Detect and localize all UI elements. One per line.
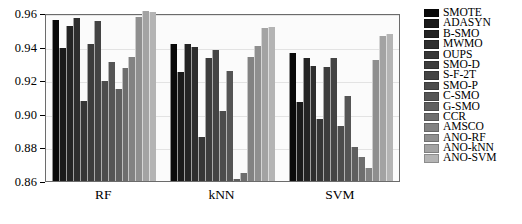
bar-fill: [337, 126, 344, 181]
bar-svm-ccr: [358, 157, 365, 181]
bar-rf-ano-rf: [135, 17, 142, 181]
legend: SMOTEADASYNB-SMOMWMOOUPSSMO-DS-F-2TSMO-P…: [424, 8, 520, 164]
bar-fill: [212, 50, 219, 181]
bar-fill: [386, 34, 393, 182]
legend-swatch: [424, 9, 439, 18]
bar-fill: [101, 81, 108, 181]
bar-svm-amsco: [365, 168, 372, 181]
bar-fill: [191, 47, 198, 181]
bar-rf-c-smo: [108, 62, 115, 181]
bar-fill: [66, 26, 73, 181]
bar-fill: [254, 46, 261, 181]
bar-fill: [330, 58, 337, 181]
bar-fill: [240, 173, 247, 181]
bar-rf-g-smo: [115, 89, 122, 181]
bar-knn-oups: [198, 137, 205, 181]
legend-swatch: [424, 71, 439, 80]
bar-svm-smote: [289, 53, 296, 181]
bar-knn-ano-rf: [254, 46, 261, 181]
bar-rf-b-smo: [66, 26, 73, 181]
bar-fill: [73, 18, 80, 181]
bar-fill: [344, 96, 351, 181]
bar-knn-ano-knn: [261, 28, 268, 181]
bar-fill: [358, 157, 365, 181]
bar-knn-adasyn: [177, 72, 184, 181]
group-gap: [275, 15, 289, 181]
bar-rf-adasyn: [59, 48, 66, 181]
y-tick-label: 0.92: [15, 74, 37, 89]
x-tick-label-knn: kNN: [208, 187, 234, 203]
group-gap: [156, 15, 170, 181]
legend-swatch: [424, 30, 439, 39]
bar-groups: [46, 15, 399, 181]
bar-rf-smote: [52, 20, 59, 181]
bar-knn-amsco: [247, 57, 254, 181]
legend-swatch: [424, 134, 439, 143]
bar-svm-smo-p: [337, 126, 344, 181]
bar-fill: [296, 102, 303, 181]
bar-fill: [142, 11, 149, 181]
bar-svm-ano-knn: [379, 36, 386, 181]
x-tick-label-svm: SVM: [325, 187, 354, 203]
bar-fill: [323, 67, 330, 181]
legend-swatch: [424, 51, 439, 60]
bar-group-rf: [52, 15, 156, 181]
bar-knn-ccr: [240, 173, 247, 181]
bar-fill: [198, 137, 205, 181]
bar-rf-s-f-2t: [94, 21, 101, 181]
bar-svm-mwmo: [310, 66, 317, 181]
bar-knn-ano-svm: [268, 27, 275, 181]
bar-svm-smo-d: [323, 67, 330, 181]
bar-knn-b-smo: [184, 44, 191, 181]
bar-fill: [316, 119, 323, 181]
bar-fill: [87, 44, 94, 181]
bar-fill: [149, 12, 156, 181]
legend-swatch: [424, 144, 439, 153]
legend-swatch: [424, 113, 439, 122]
bar-group-knn: [170, 15, 274, 181]
bar-fill: [115, 89, 122, 181]
bar-fill: [303, 58, 310, 181]
bar-svm-ano-rf: [372, 60, 379, 181]
bar-fill: [372, 60, 379, 181]
bar-rf-mwmo: [73, 18, 80, 181]
y-tick-label: 0.88: [15, 141, 37, 156]
bar-fill: [52, 20, 59, 181]
bar-group-svm: [289, 15, 393, 181]
bar-knn-c-smo: [226, 71, 233, 181]
legend-swatch: [424, 102, 439, 111]
bar-fill: [205, 58, 212, 181]
bar-svm-adasyn: [296, 102, 303, 181]
bar-fill: [108, 62, 115, 181]
x-tick-label-rf: RF: [95, 187, 112, 203]
legend-item-g-smo[interactable]: G-SMO: [424, 102, 520, 112]
legend-item-mwmo[interactable]: MWMO: [424, 39, 520, 49]
bar-fill: [177, 72, 184, 181]
bar-fill: [379, 36, 386, 181]
plot-area: [45, 14, 400, 182]
y-tick-label: 0.86: [15, 175, 37, 190]
legend-swatch: [424, 92, 439, 101]
bar-fill: [268, 27, 275, 181]
bar-knn-smo-d: [205, 58, 212, 181]
y-tick-label: 0.96: [15, 7, 37, 22]
bar-fill: [226, 71, 233, 181]
legend-swatch: [424, 123, 439, 132]
y-tick-label: 0.90: [15, 107, 37, 122]
bar-rf-ano-knn: [142, 11, 149, 181]
bar-fill: [135, 17, 142, 181]
legend-swatch: [424, 40, 439, 49]
legend-swatch: [424, 61, 439, 70]
bar-fill: [122, 68, 129, 181]
bar-fill: [310, 66, 317, 181]
bar-fill: [80, 101, 87, 181]
legend-item-ano-svm[interactable]: ANO-SVM: [424, 153, 520, 163]
bar-fill: [247, 57, 254, 181]
x-axis: RFkNNSVM: [45, 183, 400, 209]
bar-chart-figure: 0.860.880.900.920.940.96 RFkNNSVM SMOTEA…: [0, 0, 522, 224]
legend-label: ANO-SVM: [443, 153, 496, 163]
bar-knn-s-f-2t: [212, 50, 219, 181]
legend-swatch: [424, 154, 439, 163]
bar-fill: [289, 53, 296, 181]
bar-svm-s-f-2t: [330, 58, 337, 181]
